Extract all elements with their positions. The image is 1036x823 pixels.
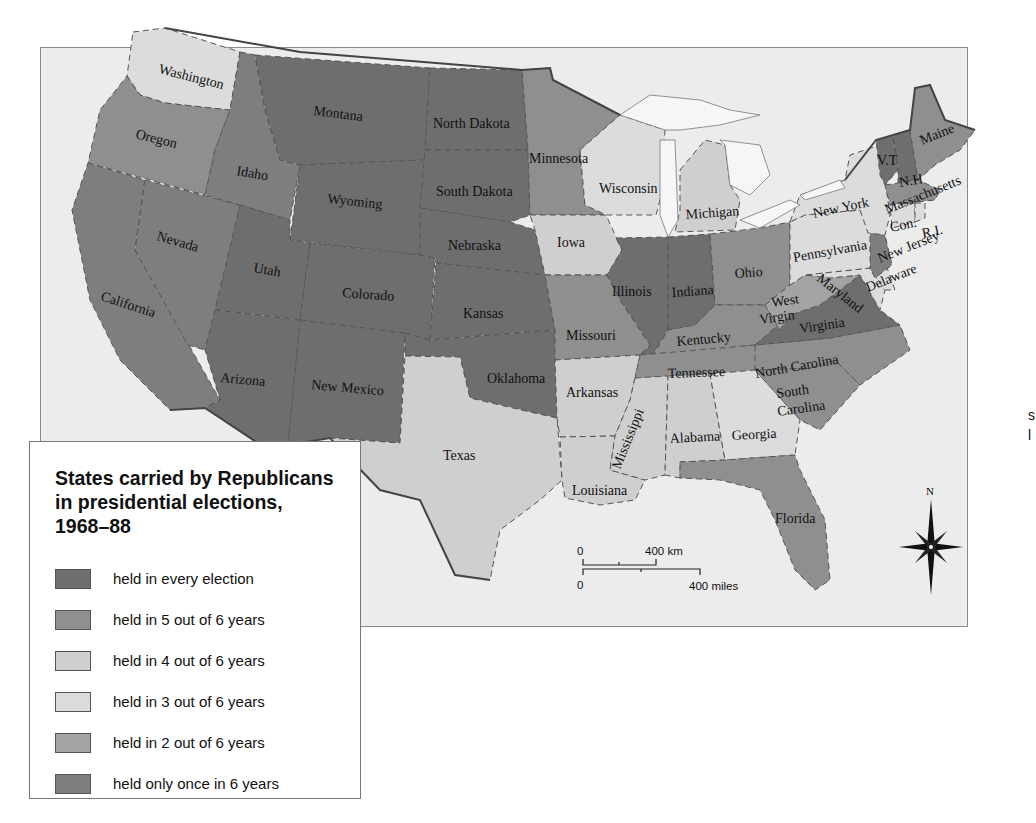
compass-north-label: N (926, 485, 934, 497)
legend-label: held only once in 6 years (113, 775, 279, 792)
label-florida: Florida (775, 511, 816, 526)
legend-swatch (55, 692, 91, 712)
legend-title: States carried by Republicans in preside… (55, 466, 360, 538)
state-rhode-island (915, 203, 925, 222)
label-minnesota: Minnesota (529, 151, 589, 166)
legend-swatch (55, 733, 91, 753)
lake-michigan (660, 140, 678, 237)
compass-rose-icon: N (899, 485, 963, 595)
label-oklahoma: Oklahoma (487, 371, 546, 386)
legend-swatch (55, 651, 91, 671)
label-illinois: Illinois (612, 284, 652, 299)
legend-title-line2: in presidential elections, (55, 490, 360, 514)
legend-item-five: held in 5 out of 6 years (55, 599, 360, 640)
legend-swatch (55, 569, 91, 589)
legend-item-every: held in every election (55, 558, 360, 599)
label-north-dakota: North Dakota (433, 116, 510, 131)
label-kansas: Kansas (463, 306, 503, 321)
legend-title-line1: States carried by Republicans (55, 466, 360, 490)
legend-label: held in 4 out of 6 years (113, 652, 265, 669)
state-north-dakota (425, 68, 528, 150)
map-legend: States carried by Republicans in preside… (29, 441, 361, 799)
legend-title-line3: 1968–88 (55, 514, 360, 538)
legend-label: held in 5 out of 6 years (113, 611, 265, 628)
legend-swatch (55, 774, 91, 794)
scale-km-zero: 0 (577, 545, 583, 557)
label-georgia: Georgia (731, 426, 777, 443)
scale-mi-label: 400 miles (689, 580, 738, 592)
label-arkansas: Arkansas (566, 385, 618, 400)
page-edge-text: s l (1028, 405, 1035, 445)
scale-mi-zero: 0 (577, 579, 583, 591)
legend-item-three: held in 3 out of 6 years (55, 681, 360, 722)
label-indiana: Indiana (671, 282, 715, 300)
legend-label: held in 2 out of 6 years (113, 734, 265, 751)
label-missouri: Missouri (566, 328, 616, 343)
label-rhode-island: R.I. (921, 222, 945, 241)
label-iowa: Iowa (557, 235, 586, 250)
label-south-dakota: South Dakota (436, 184, 513, 199)
state-ohio (710, 222, 790, 305)
edge-mark-2: l (1028, 425, 1035, 445)
label-nebraska: Nebraska (448, 238, 502, 253)
legend-swatch (55, 610, 91, 630)
legend-label: held in 3 out of 6 years (113, 693, 265, 710)
legend-label: held in every election (113, 570, 254, 587)
label-wisconsin: Wisconsin (599, 181, 658, 196)
legend-item-four: held in 4 out of 6 years (55, 640, 360, 681)
label-vermont: V.T (877, 153, 898, 168)
label-texas: Texas (443, 448, 475, 463)
legend-item-two: held in 2 out of 6 years (55, 722, 360, 763)
scale-bar: 0 400 km 0 400 miles (577, 545, 738, 592)
label-ohio: Ohio (734, 264, 763, 281)
scale-km-label: 400 km (645, 545, 683, 557)
label-tennessee: Tennessee (668, 364, 726, 381)
legend-item-once: held only once in 6 years (55, 763, 360, 804)
edge-mark-1: s (1028, 405, 1035, 425)
label-louisiana: Louisiana (572, 483, 628, 498)
label-alabama: Alabama (669, 428, 721, 446)
state-kansas (430, 263, 555, 340)
